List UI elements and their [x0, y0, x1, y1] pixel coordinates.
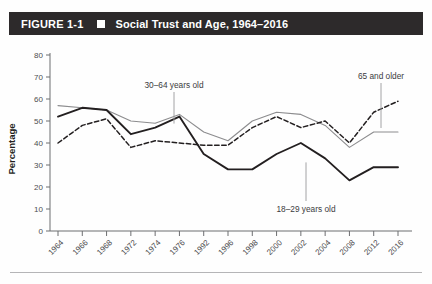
series-annotations: 30–64 years old65 and older18–29 years o…: [144, 71, 404, 214]
svg-text:20: 20: [34, 183, 43, 192]
svg-text:2012: 2012: [362, 238, 381, 257]
x-axis: 1964196619681972197419761992199619982000…: [46, 231, 412, 257]
svg-text:1996: 1996: [216, 238, 235, 257]
svg-text:1966: 1966: [71, 238, 90, 257]
svg-text:1976: 1976: [168, 238, 187, 257]
svg-text:80: 80: [34, 51, 43, 60]
chart-area: 01020304050607080 1964196619681972197419…: [0, 36, 432, 264]
svg-text:0: 0: [39, 227, 44, 236]
svg-text:2016: 2016: [386, 238, 405, 257]
svg-text:1998: 1998: [241, 238, 260, 257]
svg-text:30: 30: [34, 161, 43, 170]
figure-number: FIGURE 1-1: [21, 18, 84, 30]
y-axis: 01020304050607080: [34, 51, 50, 236]
svg-text:50: 50: [34, 117, 43, 126]
figure-title-bar: FIGURE 1-1 Social Trust and Age, 1964–20…: [9, 12, 423, 35]
svg-text:1968: 1968: [95, 238, 114, 257]
svg-text:1972: 1972: [119, 238, 138, 257]
annotation-label: 18–29 years old: [276, 204, 335, 214]
svg-text:60: 60: [34, 95, 43, 104]
svg-text:2004: 2004: [314, 238, 333, 257]
annotation-label: 30–64 years old: [144, 80, 203, 90]
series-line-30-64-years-old: [58, 108, 398, 181]
line-chart: 01020304050607080 1964196619681972197419…: [0, 36, 432, 264]
figure-container: FIGURE 1-1 Social Trust and Age, 1964–20…: [0, 0, 432, 284]
svg-text:2000: 2000: [265, 238, 284, 257]
svg-text:40: 40: [34, 139, 43, 148]
square-bullet-icon: [97, 20, 105, 28]
svg-text:1974: 1974: [144, 238, 163, 257]
figure-title: Social Trust and Age, 1964–2016: [116, 18, 289, 30]
svg-text:70: 70: [34, 73, 43, 82]
bottom-divider: [10, 272, 422, 273]
svg-text:2002: 2002: [289, 238, 308, 257]
svg-text:1992: 1992: [192, 238, 211, 257]
annotation-label: 65 and older: [358, 71, 404, 81]
svg-text:1964: 1964: [46, 238, 65, 257]
svg-text:10: 10: [34, 205, 43, 214]
svg-text:2008: 2008: [338, 238, 357, 257]
y-axis-title: Percentage: [6, 123, 17, 174]
series-lines: [58, 101, 398, 180]
